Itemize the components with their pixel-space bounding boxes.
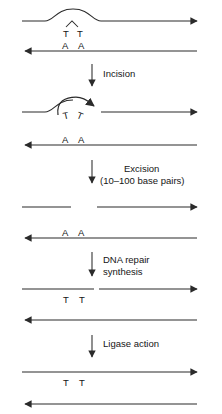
base-letter: T — [79, 294, 85, 305]
base-letter: T — [63, 28, 69, 39]
step-label-synthesis-line1: DNA repair — [103, 254, 149, 265]
top-strand-damaged — [22, 9, 197, 21]
base-letter: A — [62, 134, 68, 145]
step-label-ligase: Ligase action — [103, 338, 159, 349]
base-letter: A — [78, 134, 84, 145]
base-letter: T — [79, 377, 85, 388]
stage-damaged — [22, 9, 197, 51]
step-label-synthesis-line2: synthesis — [103, 266, 143, 277]
stage-ligated — [22, 372, 197, 404]
step-label-excision-line1: Excision — [124, 163, 159, 174]
step-label-excision-line2: (10–100 base pairs) — [100, 175, 185, 186]
stage-incised — [22, 97, 197, 145]
stage-excised — [22, 207, 197, 238]
base-letter: A — [62, 40, 68, 51]
base-letter: T — [63, 294, 69, 305]
base-letter: T — [63, 377, 69, 388]
base-letter: A — [78, 40, 84, 51]
step-label-incision: Incision — [103, 68, 135, 79]
stage-resynthesized — [22, 289, 197, 320]
base-letter: A — [62, 227, 68, 238]
dimer-bond-icon — [66, 21, 78, 27]
diagram-canvas — [0, 0, 222, 414]
dna-repair-diagram: T T A A T T A A A A T T T T Incision Exc… — [0, 0, 222, 414]
base-letter: T — [77, 28, 83, 39]
base-letter: A — [78, 227, 84, 238]
